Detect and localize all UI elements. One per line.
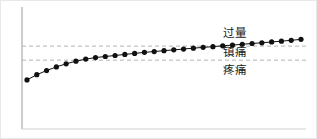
data-point-marker <box>24 77 29 82</box>
data-point-marker <box>181 46 186 51</box>
pharmacokinetics-chart-figure: 过量 镇痛 疼痛 <box>0 0 317 139</box>
drug-concentration-line <box>27 39 301 80</box>
data-point-marker <box>171 47 176 52</box>
data-point-marker <box>161 48 166 53</box>
data-point-marker <box>210 44 215 49</box>
data-point-marker <box>191 46 196 51</box>
zone-label-pain: 疼痛 <box>223 64 246 77</box>
data-point-marker <box>142 50 147 55</box>
data-point-marker <box>259 40 264 45</box>
data-point-marker <box>83 57 88 62</box>
data-point-marker <box>269 39 274 44</box>
data-point-marker <box>298 37 303 42</box>
chart-plot-area <box>1 1 317 139</box>
data-point-marker <box>122 52 127 57</box>
data-point-marker <box>103 54 108 59</box>
data-point-marker <box>279 39 284 44</box>
data-point-marker <box>112 53 117 58</box>
data-point-marker <box>249 41 254 46</box>
zone-label-analgesia: 镇痛 <box>223 46 246 59</box>
data-point-marker <box>152 49 157 54</box>
data-point-marker <box>73 59 78 64</box>
data-point-marker <box>201 45 206 50</box>
data-point-marker <box>93 55 98 60</box>
data-point-marker <box>34 72 39 77</box>
data-point-marker <box>64 61 69 66</box>
data-point-marker <box>289 38 294 43</box>
zone-label-overdose: 过量 <box>223 27 246 40</box>
drug-concentration-markers <box>24 37 303 83</box>
data-point-marker <box>54 64 59 69</box>
data-point-marker <box>132 51 137 56</box>
data-point-marker <box>44 68 49 73</box>
